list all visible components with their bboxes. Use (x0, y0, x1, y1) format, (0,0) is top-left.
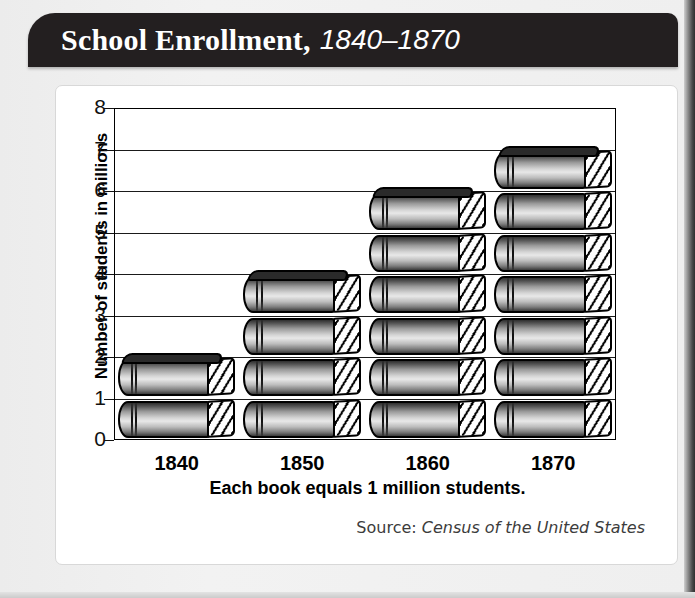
y-tick-mark (104, 233, 114, 234)
y-tick-mark (104, 440, 114, 441)
book-pages (458, 274, 486, 313)
book-cover (247, 270, 350, 281)
book-pages (458, 316, 486, 355)
book-icon (369, 316, 487, 358)
book-stacks (114, 108, 616, 440)
y-tick-label: 8 (80, 95, 106, 119)
chart-title-main: School Enrollment, (61, 23, 311, 57)
y-tick-label: 0 (80, 427, 106, 451)
chart-title-banner: School Enrollment, 1840–1870 (28, 13, 678, 67)
book-pages (584, 191, 612, 230)
y-tick-mark (104, 108, 114, 109)
book-pages (458, 399, 486, 438)
y-tick-mark (104, 191, 114, 192)
source-title: Census of the United States (422, 518, 645, 537)
book-band (131, 361, 133, 394)
book-stack (369, 191, 487, 440)
chart-unit-caption: Each book equals 1 million students. (56, 478, 679, 499)
book-band (261, 278, 263, 311)
y-tick-label: 4 (80, 261, 106, 285)
book-icon (243, 399, 361, 441)
book-cover (498, 146, 601, 157)
book-band (512, 320, 514, 353)
book-band (512, 154, 514, 187)
chart-card: Number of students in millions 012345678… (55, 85, 678, 565)
book-icon (494, 357, 612, 399)
figure-root: School Enrollment, 1840–1870 Number of s… (0, 0, 695, 598)
book-band (261, 403, 263, 436)
book-cover (121, 353, 224, 364)
book-band (512, 403, 514, 436)
book-stack (118, 357, 236, 440)
book-icon (494, 233, 612, 275)
book-icon (118, 357, 236, 399)
y-tick-label: 7 (80, 137, 106, 161)
book-icon (494, 399, 612, 441)
book-pages (584, 357, 612, 396)
book-pages (584, 233, 612, 272)
book-pages (584, 316, 612, 355)
book-pages (333, 316, 361, 355)
y-tick-mark (104, 274, 114, 275)
book-pages (458, 233, 486, 272)
book-band (382, 403, 384, 436)
x-axis-label: 1840 (117, 452, 237, 475)
y-tick-label: 1 (80, 386, 106, 410)
book-band (512, 195, 514, 228)
book-band (261, 320, 263, 353)
book-band (382, 278, 384, 311)
book-icon (243, 274, 361, 316)
book-pages (207, 399, 235, 438)
book-icon (369, 191, 487, 233)
y-tick-mark (104, 316, 114, 317)
book-icon (494, 316, 612, 358)
y-tick-label: 2 (80, 344, 106, 368)
book-band (512, 278, 514, 311)
book-cover (372, 187, 475, 198)
book-band (512, 237, 514, 270)
book-band (261, 361, 263, 394)
y-tick-label: 6 (80, 178, 106, 202)
source-label: Source: (356, 518, 416, 537)
book-icon (369, 357, 487, 399)
y-tick-mark (104, 150, 114, 151)
book-band (512, 361, 514, 394)
page-edge-bottom (0, 592, 695, 598)
chart-title-date-range: 1840–1870 (320, 24, 460, 56)
book-pages (458, 357, 486, 396)
book-icon (369, 233, 487, 275)
book-icon (243, 316, 361, 358)
book-band (382, 361, 384, 394)
book-pages (584, 274, 612, 313)
book-icon (243, 357, 361, 399)
x-axis-label: 1850 (242, 452, 362, 475)
y-tick-mark (104, 357, 114, 358)
book-stack (494, 150, 612, 441)
x-axis-label: 1860 (368, 452, 488, 475)
page-edge-shadow (684, 0, 695, 598)
book-stack (243, 274, 361, 440)
book-band (382, 195, 384, 228)
book-icon (369, 274, 487, 316)
y-tick-mark (104, 399, 114, 400)
book-pages (333, 399, 361, 438)
book-band (382, 320, 384, 353)
book-band (131, 403, 133, 436)
book-pages (584, 399, 612, 438)
book-band (382, 237, 384, 270)
book-icon (369, 399, 487, 441)
book-icon (494, 274, 612, 316)
book-pages (333, 357, 361, 396)
plot-wrapper: Number of students in millions 012345678… (56, 86, 679, 566)
y-tick-label: 3 (80, 303, 106, 327)
book-icon (494, 191, 612, 233)
y-tick-label: 5 (80, 220, 106, 244)
book-icon (118, 399, 236, 441)
source-note: Source: Census of the United States (356, 518, 645, 537)
book-icon (494, 150, 612, 192)
x-axis-label: 1870 (493, 452, 613, 475)
